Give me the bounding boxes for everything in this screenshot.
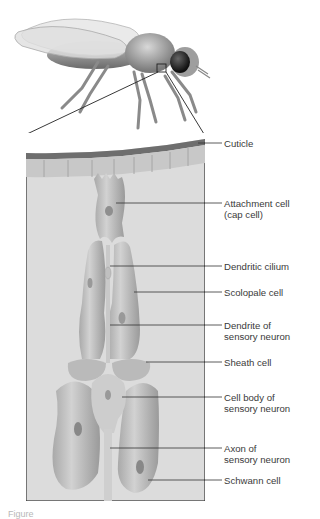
label-text: sensory neuron <box>224 403 290 414</box>
label-attachment-cell: Attachment cell(cap cell) <box>224 198 290 220</box>
label-schwann-cell: Schwann cell <box>224 475 281 486</box>
label-text: Scolopale cell <box>224 287 283 298</box>
label-sheath-cell: Sheath cell <box>224 357 271 368</box>
label-dendritic-cilium: Dendritic cilium <box>224 261 289 272</box>
zoom-lines <box>0 0 320 140</box>
label-text: Dendrite of <box>224 320 290 331</box>
label-text: (cap cell) <box>224 209 290 220</box>
label-text: Schwann cell <box>224 475 281 486</box>
label-text: sensory neuron <box>224 454 290 465</box>
label-text: Sheath cell <box>224 357 271 368</box>
label-text: Axon of <box>224 443 290 454</box>
label-dendrite: Dendrite ofsensory neuron <box>224 320 290 342</box>
leader-lines-outer <box>204 0 224 517</box>
label-axon: Axon ofsensory neuron <box>224 443 290 465</box>
sensory-organ-panel <box>26 133 205 501</box>
label-text: Cuticle <box>224 138 253 149</box>
label-cuticle: Cuticle <box>224 138 253 149</box>
label-scolopale-cell: Scolopale cell <box>224 287 283 298</box>
label-text: Attachment cell <box>224 198 290 209</box>
figure-caption: Figure <box>8 509 34 519</box>
label-text: Cell body of <box>224 392 290 403</box>
label-cell-body: Cell body ofsensory neuron <box>224 392 290 414</box>
label-text: sensory neuron <box>224 331 290 342</box>
label-text: Dendritic cilium <box>224 261 289 272</box>
